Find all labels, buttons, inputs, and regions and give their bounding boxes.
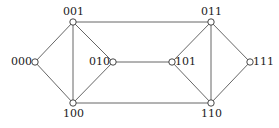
edge-010-100 — [73, 62, 113, 103]
edge-011-111 — [211, 22, 250, 62]
node-label-101: 101 — [175, 56, 196, 67]
edge-000-100 — [35, 62, 73, 103]
node-label-001: 001 — [63, 6, 84, 17]
edge-000-001 — [35, 22, 73, 62]
node-label-010: 010 — [89, 56, 110, 67]
graph-diagram: 000001010100011101111110 — [0, 0, 279, 128]
edge-111-110 — [211, 62, 250, 103]
node-label-011: 011 — [201, 6, 222, 17]
node-011-circle — [208, 19, 214, 25]
node-label-110: 110 — [201, 108, 222, 119]
node-000-circle — [32, 59, 38, 65]
node-110-circle — [208, 100, 214, 106]
node-100-circle — [70, 100, 76, 106]
node-label-100: 100 — [63, 108, 84, 119]
node-label-111: 111 — [253, 56, 274, 67]
graph-edges — [0, 0, 279, 128]
edge-101-110 — [172, 62, 211, 103]
node-label-000: 000 — [11, 56, 32, 67]
node-010-circle — [110, 59, 116, 65]
node-001-circle — [70, 19, 76, 25]
